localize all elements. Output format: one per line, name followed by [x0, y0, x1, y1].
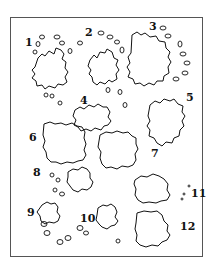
region-8-outline [67, 167, 93, 192]
region-label-8: 8 [33, 167, 41, 178]
region-3-outline [127, 32, 171, 86]
region-1-outline [32, 48, 68, 89]
region-label-4: 4 [80, 95, 88, 106]
region-label-3: 3 [149, 21, 157, 32]
region-label-12: 12 [180, 221, 195, 232]
region-label-6: 6 [29, 132, 37, 143]
region-4-outline [73, 104, 111, 131]
region-label-1: 1 [25, 37, 33, 48]
region-5-outline [147, 99, 185, 146]
region-9-outline [37, 202, 60, 224]
region-2-outline [88, 49, 119, 85]
region-label-2: 2 [85, 27, 93, 38]
region-label-10: 10 [80, 213, 95, 224]
region-label-11: 11 [191, 188, 206, 199]
region-label-9: 9 [27, 207, 35, 218]
region-7-outline [98, 131, 138, 169]
region-12-outline [135, 211, 170, 247]
region-label-5: 5 [186, 92, 194, 103]
region-10-outline [96, 204, 118, 229]
region-11-outline [134, 174, 170, 203]
region-label-7: 7 [151, 148, 159, 159]
